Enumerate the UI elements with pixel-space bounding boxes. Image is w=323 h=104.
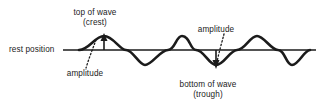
trough-label-line-2: (trough)	[160, 90, 256, 100]
trough-label-line-1: bottom of wave	[160, 80, 256, 90]
wave-diagram: rest position top of wave (crest) amplit…	[0, 0, 323, 104]
trough-label: bottom of wave (trough)	[160, 80, 256, 99]
crest-label: top of wave (crest)	[60, 8, 130, 27]
rest-position-label: rest position	[9, 45, 54, 55]
crest-label-line-1: top of wave	[60, 8, 130, 18]
amplitude-label-left: amplitude	[55, 69, 115, 79]
amplitude-label-right: amplitude	[186, 25, 246, 35]
crest-label-line-2: (crest)	[60, 18, 130, 28]
amplitude-right-leader-line	[217, 34, 224, 62]
